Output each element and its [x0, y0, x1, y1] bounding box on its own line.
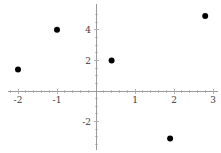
y-tick-label: 2: [85, 56, 91, 66]
plot-canvas: -2-1123 42-2: [0, 0, 221, 153]
x-tick-label: -1: [53, 95, 62, 105]
x-tick-label: 2: [171, 95, 177, 105]
x-tick-label: 3: [210, 95, 216, 105]
data-point: [167, 135, 173, 141]
axes-group: [8, 4, 218, 150]
data-point: [54, 27, 60, 33]
y-tick-label: 4: [85, 25, 91, 35]
data-point: [109, 57, 115, 63]
x-tick-labels-group: -2-1123: [14, 95, 217, 105]
y-tick-labels-group: 42-2: [82, 25, 91, 127]
y-tick-label: -2: [82, 117, 91, 127]
scatter-plot: -2-1123 42-2: [0, 0, 221, 153]
data-point: [15, 67, 21, 73]
x-tick-label: 1: [132, 95, 138, 105]
minor-ticks-group: [10, 15, 213, 145]
data-points-group: [15, 13, 208, 141]
data-point: [202, 13, 208, 19]
x-tick-label: -2: [14, 95, 23, 105]
